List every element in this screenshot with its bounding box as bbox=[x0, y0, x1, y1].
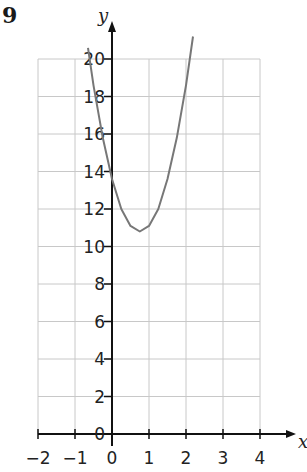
axes bbox=[38, 21, 296, 446]
x-tick-label: −2 bbox=[25, 448, 50, 468]
y-tick-label: 8 bbox=[94, 274, 105, 294]
y-tick-label: 6 bbox=[94, 312, 105, 332]
x-tick-label: 2 bbox=[181, 448, 192, 468]
y-tick-label: 20 bbox=[83, 49, 105, 69]
x-tick-label: −1 bbox=[62, 448, 87, 468]
grid-lines bbox=[38, 59, 260, 434]
x-axis-arrow-icon bbox=[286, 430, 296, 438]
x-tick-label: 1 bbox=[144, 448, 155, 468]
x-tick-label: 0 bbox=[107, 448, 118, 468]
y-tick-label: 0 bbox=[94, 424, 105, 444]
x-tick-label: 3 bbox=[218, 448, 229, 468]
y-axis-arrow-icon bbox=[108, 21, 116, 32]
y-tick-label: 12 bbox=[83, 199, 105, 219]
y-axis-label: y bbox=[97, 5, 109, 26]
graph: −2−10123402468101214161820 x y bbox=[0, 0, 307, 472]
x-tick-label: 4 bbox=[255, 448, 266, 468]
y-tick-label: 2 bbox=[94, 387, 105, 407]
tick-labels: −2−10123402468101214161820 bbox=[25, 49, 265, 468]
y-tick-label: 10 bbox=[83, 237, 105, 257]
y-tick-label: 4 bbox=[94, 349, 105, 369]
y-tick-label: 14 bbox=[83, 162, 105, 182]
x-axis-label: x bbox=[298, 431, 307, 452]
